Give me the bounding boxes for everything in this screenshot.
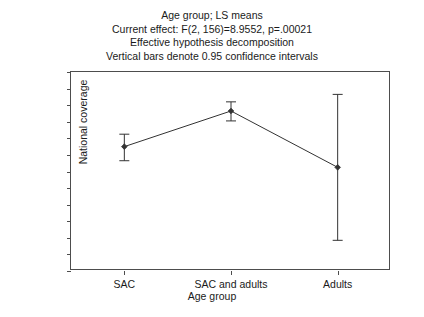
x-tick-mark	[124, 271, 125, 275]
chart-figure: Age group; LS means Current effect: F(2,…	[0, 0, 424, 317]
y-tick-mark	[67, 271, 71, 272]
chart-title-line-1: Age group; LS means	[0, 9, 424, 23]
x-tick-mark	[338, 271, 339, 275]
chart-title-line-2: Current effect: F(2, 156)=8.9552, p=.000…	[0, 23, 424, 37]
y-tick-mark	[67, 105, 71, 106]
x-tick-label: Adults	[268, 278, 408, 290]
chart-title-block: Age group; LS means Current effect: F(2,…	[0, 9, 424, 63]
y-tick-mark	[67, 188, 71, 189]
y-tick-mark	[67, 254, 71, 255]
y-tick-mark	[67, 172, 71, 173]
x-axis-label: Age group	[0, 290, 424, 302]
data-point-marker	[335, 165, 341, 171]
y-tick-mark	[67, 205, 71, 206]
data-point-marker	[122, 144, 128, 150]
y-tick-mark	[67, 122, 71, 123]
y-tick-mark	[67, 238, 71, 239]
y-tick-mark	[67, 138, 71, 139]
chart-title-line-3: Effective hypothesis decomposition	[0, 36, 424, 50]
data-point-marker	[228, 108, 234, 114]
chart-title-line-4: Vertical bars denote 0.95 confidence int…	[0, 50, 424, 64]
data-series-svg	[71, 72, 391, 271]
y-tick-mark	[67, 89, 71, 90]
x-tick-mark	[231, 271, 232, 275]
y-tick-mark	[67, 72, 71, 73]
y-tick-mark	[67, 155, 71, 156]
plot-area: National coverage 0.60.50.40.30.20.10.0−…	[70, 71, 390, 270]
y-tick-mark	[67, 221, 71, 222]
